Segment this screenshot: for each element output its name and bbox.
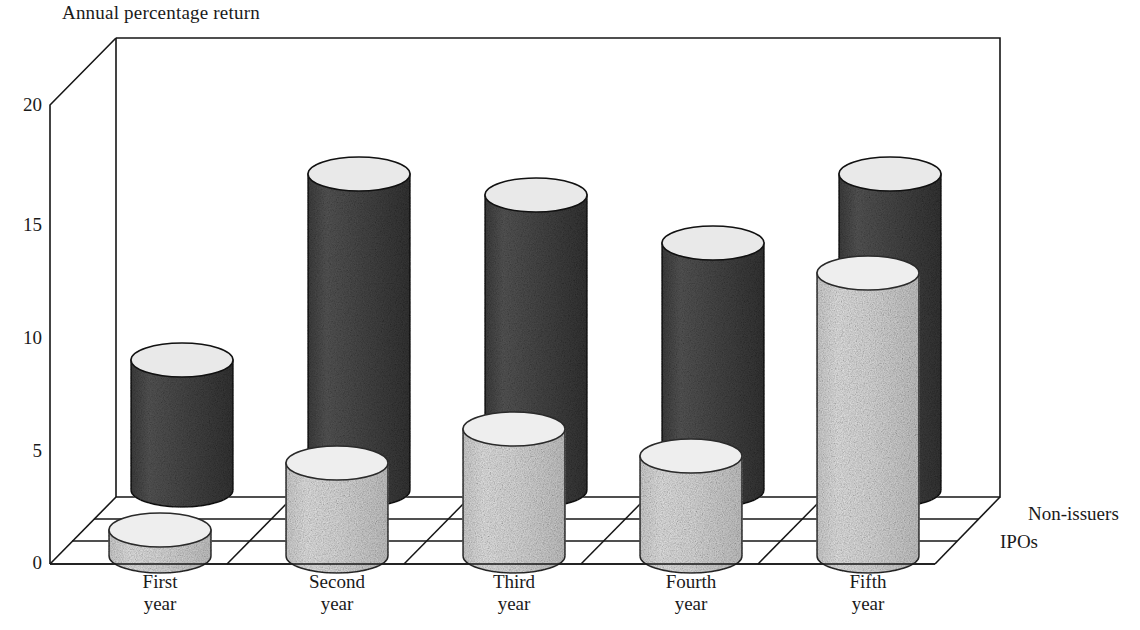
y-tick-label-10: 10 (2, 327, 42, 349)
y-tick-label-0: 0 (2, 552, 42, 574)
bar-ipos-second-year (286, 446, 388, 573)
series-label-non-issuers: Non-issuers (1028, 503, 1119, 525)
bar-ipos-fourth-year (640, 439, 742, 573)
chart-canvas: Annual percentage return 20 15 10 5 0 (0, 0, 1140, 630)
y-tick-label-15: 15 (2, 214, 42, 236)
x-category-label-first-year: First year (90, 571, 230, 615)
bar-ipos-fifth-year (817, 256, 919, 573)
bar-ipos-third-year (463, 412, 565, 573)
chart-svg (0, 0, 1140, 630)
x-category-label-fifth-year: Fifth year (798, 571, 938, 615)
series-label-ipos: IPOs (1000, 531, 1038, 553)
y-tick-label-20: 20 (2, 94, 42, 116)
x-category-label-third-year: Third year (444, 571, 584, 615)
bar-non-issuers-first-year (131, 343, 233, 507)
x-category-label-second-year: Second year (267, 571, 407, 615)
x-category-label-fourth-year: Fourth year (621, 571, 761, 615)
y-axis-title: Annual percentage return (62, 2, 260, 24)
y-tick-label-5: 5 (2, 440, 42, 462)
